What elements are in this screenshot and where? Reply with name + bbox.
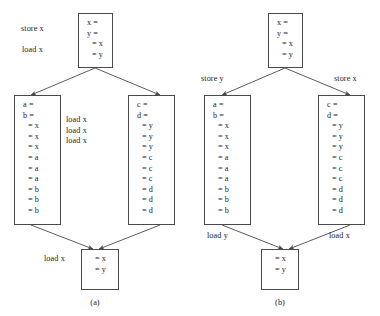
block-b-right: c =d == y= y= y= c= c= c= d= d= d: [318, 95, 365, 225]
block-a-merge: = x= y: [81, 249, 119, 290]
op-line: = b: [205, 195, 250, 206]
op-line: = y: [129, 121, 174, 132]
op-line: = b: [15, 206, 60, 217]
op-line: = d: [129, 195, 174, 206]
op-line: c =: [319, 100, 364, 111]
op-line: = x: [15, 142, 60, 153]
label-a-merge-load: load x: [44, 254, 65, 265]
op-line: a =: [205, 100, 250, 111]
op-line: = x: [79, 39, 112, 50]
op-line: = a: [15, 164, 60, 175]
op-line: = x: [205, 121, 250, 132]
label-b-left-load: load y: [207, 231, 228, 242]
op-line: = c: [319, 174, 364, 185]
block-a-right: c =d == y= y= y= c= c= c= d= d= d: [128, 95, 175, 225]
op-line: = y: [129, 142, 174, 153]
op-line: = b: [205, 206, 250, 217]
block-b-entry-ops: x =y == x= y: [269, 14, 302, 60]
op-line: = b: [15, 185, 60, 196]
op-line: = x: [205, 142, 250, 153]
op-line: = y: [319, 121, 364, 132]
label-b-left-store: store y: [201, 74, 224, 85]
caption-a: (a): [75, 297, 115, 308]
op-line: = x: [269, 39, 302, 50]
op-line: = y: [319, 132, 364, 143]
figure-control-flow-graphs: store x load x x =y == x= y a =b == x= x…: [0, 0, 380, 316]
label-a-entry-load: load x: [22, 45, 43, 56]
op-line: = y: [82, 265, 118, 276]
op-line: d =: [319, 111, 364, 122]
op-line: = a: [15, 153, 60, 164]
diagram-b: x =y == x= y store y store x a =b == x= …: [190, 0, 380, 316]
op-line: load x: [66, 126, 87, 137]
block-a-merge-ops: = x= y: [82, 250, 118, 275]
block-b-entry: x =y == x= y: [268, 13, 303, 68]
op-line: = x: [82, 254, 118, 265]
op-line: = c: [129, 174, 174, 185]
op-line: b =: [15, 111, 60, 122]
label-a-entry-store: store x: [21, 24, 44, 35]
op-line: = a: [205, 174, 250, 185]
op-line: = d: [319, 195, 364, 206]
op-line: = c: [319, 153, 364, 164]
block-b-left-ops: a =b == x= x= x= a= a= a= b= b= b: [205, 96, 250, 217]
block-a-entry: x =y == x= y: [78, 13, 113, 68]
op-line: = c: [319, 164, 364, 175]
block-b-left: a =b == x= x= x= a= a= a= b= b= b: [204, 95, 251, 225]
op-line: = y: [79, 50, 112, 61]
op-line: y =: [79, 29, 112, 40]
caption-b: (b): [260, 297, 300, 308]
block-a-left: a =b == x= x= x= a= a= a= b= b= b: [14, 95, 61, 225]
label-b-right-load: load x: [329, 231, 350, 242]
op-line: = y: [129, 132, 174, 143]
op-line: = b: [15, 195, 60, 206]
op-line: d =: [129, 111, 174, 122]
op-line: load x: [66, 115, 87, 126]
op-line: c =: [129, 100, 174, 111]
op-line: = d: [129, 206, 174, 217]
op-line: b =: [205, 111, 250, 122]
op-line: a =: [15, 100, 60, 111]
block-a-entry-ops: x =y == x= y: [79, 14, 112, 60]
op-line: = x: [15, 121, 60, 132]
op-line: = x: [262, 254, 298, 265]
op-line: = y: [319, 142, 364, 153]
op-line: = a: [205, 164, 250, 175]
op-line: load x: [66, 136, 87, 147]
op-line: = d: [129, 185, 174, 196]
op-line: = d: [319, 206, 364, 217]
op-line: = a: [15, 174, 60, 185]
op-line: = x: [205, 132, 250, 143]
block-a-left-ops: a =b == x= x= x= a= a= a= b= b= b: [15, 96, 60, 217]
labels-a-middle-loads: load xload xload x: [66, 115, 87, 147]
op-line: = y: [269, 50, 302, 61]
diagram-a: store x load x x =y == x= y a =b == x= x…: [0, 0, 190, 316]
op-line: x =: [79, 18, 112, 29]
block-a-right-ops: c =d == y= y= y= c= c= c= d= d= d: [129, 96, 174, 217]
op-line: = d: [319, 185, 364, 196]
op-line: = c: [129, 153, 174, 164]
op-line: = b: [205, 185, 250, 196]
label-b-right-store: store x: [334, 74, 357, 85]
op-line: = x: [15, 132, 60, 143]
block-b-right-ops: c =d == y= y= y= c= c= c= d= d= d: [319, 96, 364, 217]
op-line: y =: [269, 29, 302, 40]
op-line: x =: [269, 18, 302, 29]
op-line: = y: [262, 265, 298, 276]
op-line: = a: [205, 153, 250, 164]
block-b-merge-ops: = x= y: [262, 250, 298, 275]
block-b-merge: = x= y: [261, 249, 299, 290]
op-line: = c: [129, 164, 174, 175]
